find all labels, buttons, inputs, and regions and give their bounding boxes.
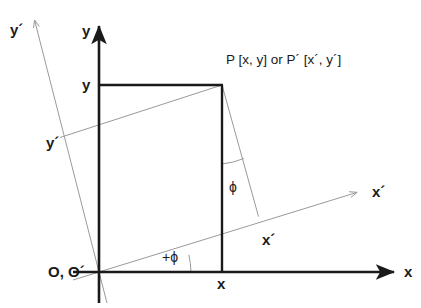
x-prime-projection-line [222, 85, 259, 217]
y-tick-label: y [82, 77, 90, 92]
angle-arc-origin [189, 255, 191, 272]
x-prime-axis-label: x´ [372, 184, 385, 199]
angle-arcs-group [189, 159, 244, 273]
coordinate-rectangle-group [98, 85, 223, 273]
y-prime-axis-line [35, 20, 99, 272]
diagram-canvas [0, 0, 421, 308]
y-prime-axis-label: y´ [10, 22, 23, 37]
x-prime-axis-line [99, 192, 357, 272]
point-p-label: P [x, y] or P´ [x´, y´] [226, 53, 341, 67]
x-prime-tick-label: x´ [262, 232, 275, 247]
cartesian-axes-group [73, 26, 394, 303]
angle-phi-lower-label: +ϕ [162, 250, 178, 264]
rotation-diagram: y x y´ x´ y x y´ x´ O, O´ P [x, y] or P´… [0, 0, 421, 308]
angle-arc-point [222, 159, 244, 165]
projection-lines-group [60, 85, 259, 217]
x-axis-label: x [404, 264, 412, 279]
angle-phi-upper-label: ϕ [229, 180, 237, 194]
origin-label: O, O´ [48, 264, 85, 279]
y-prime-tick-label: y´ [46, 135, 59, 150]
y-axis-label: y [82, 23, 90, 38]
x-tick-label: x [217, 276, 225, 291]
